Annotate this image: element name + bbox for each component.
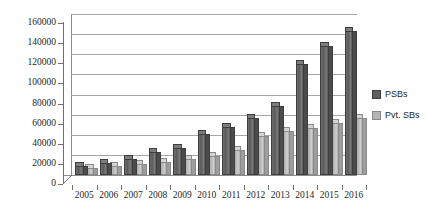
bar-psb-2015 [320, 46, 329, 175]
x-axis-tick [366, 185, 367, 190]
bar-front-face [100, 163, 109, 175]
y-axis-tick-label: 140000 [28, 38, 57, 48]
bar-side-face [167, 162, 171, 175]
x-axis-tick [219, 185, 220, 190]
bar-front-face [345, 31, 354, 175]
y-axis-tick-label: 60000 [32, 119, 56, 129]
y-axis: 0200004000060000800001000001200001400001… [0, 0, 60, 184]
bar-side-face [94, 168, 98, 175]
legend-item-label: Pvt. SBs [385, 111, 420, 120]
bar-psb-2016 [345, 31, 354, 175]
x-axis-tick [72, 185, 73, 190]
x-axis-tick [146, 185, 147, 190]
bar-side-face [304, 64, 308, 175]
legend-item-label: PSBs [385, 90, 408, 99]
x-axis-tick [342, 185, 343, 190]
bar-side-face [255, 118, 259, 175]
bar-side-face [143, 164, 147, 175]
bar-front-face [222, 127, 231, 175]
bar-side-face [182, 148, 186, 175]
bar-psb-2012 [247, 118, 256, 175]
x-axis-tick-label: 2013 [271, 190, 290, 201]
bar-psb-2008 [149, 152, 158, 175]
bar-side-face [314, 128, 318, 175]
bar-side-face [339, 123, 343, 175]
bar-side-face [353, 31, 357, 175]
bar-psb-2010 [198, 134, 207, 175]
bar-side-face [133, 159, 137, 175]
x-axis-tick-label: 2011 [222, 190, 241, 201]
bar-psb-2006 [100, 163, 109, 175]
x-axis-tick-label: 2006 [99, 190, 118, 201]
x-axis-tick [97, 185, 98, 190]
axis-origin-diagonal [63, 175, 72, 184]
bar-side-face [241, 150, 245, 175]
x-axis-tick [268, 185, 269, 190]
bar-front-face [247, 118, 256, 175]
y-axis-line [63, 22, 64, 184]
bar-psb-2007 [124, 159, 133, 175]
bar-series-group [63, 14, 357, 184]
x-axis-tick-label: 2015 [320, 190, 339, 201]
x-axis-tick [244, 185, 245, 190]
bar-side-face [216, 156, 220, 175]
x-axis-tick [317, 185, 318, 190]
x-axis-tick-label: 2005 [75, 190, 94, 201]
bar-front-face [296, 64, 305, 175]
bar-side-face [231, 127, 235, 175]
y-axis-tick [58, 184, 63, 185]
legend-swatch-icon [372, 111, 381, 120]
bar-side-face [290, 131, 294, 175]
x-axis-tick [121, 185, 122, 190]
bar-front-face [124, 159, 133, 175]
bar-side-face [280, 106, 284, 175]
plot-area [63, 14, 357, 184]
bar-psb-2011 [222, 127, 231, 175]
bar-side-face [206, 134, 210, 175]
bar-side-face [265, 136, 269, 175]
bar-front-face [173, 148, 182, 175]
bar-side-face [108, 163, 112, 175]
legend-swatch-icon [372, 90, 381, 99]
bar-side-face [157, 152, 161, 175]
bar-front-face [198, 134, 207, 175]
x-axis-tick-label: 2009 [173, 190, 192, 201]
x-axis-tick [293, 185, 294, 190]
bar-side-face [84, 166, 88, 175]
x-axis-tick-label: 2016 [344, 190, 363, 201]
bar-side-face [329, 46, 333, 175]
y-axis-tick-label: 0 [51, 179, 56, 189]
bar-side-face [192, 159, 196, 175]
x-axis-tick [195, 185, 196, 190]
bar-psb-2014 [296, 64, 305, 175]
x-axis: 2005200620072008200920102011201220132014… [63, 190, 363, 206]
x-axis-tick-label: 2010 [197, 190, 216, 201]
y-axis-tick-label: 80000 [32, 99, 56, 109]
legend-item-pvt[interactable]: Pvt. SBs [372, 111, 428, 120]
x-axis-tick-label: 2008 [148, 190, 167, 201]
y-axis-tick-label: 20000 [32, 159, 56, 169]
bar-psb-2005 [75, 166, 84, 175]
bar-side-face [118, 166, 122, 175]
bar-psb-2009 [173, 148, 182, 175]
bar-psb-2013 [271, 106, 280, 175]
bar-chart: 0200004000060000800001000001200001400001… [0, 0, 428, 217]
x-axis-tick-label: 2012 [246, 190, 265, 201]
chart-legend: PSBsPvt. SBs [372, 90, 428, 132]
bar-front-face [75, 166, 84, 175]
x-axis-tick-label: 2007 [124, 190, 143, 201]
bar-front-face [320, 46, 329, 175]
x-axis-tick-label: 2014 [295, 190, 314, 201]
y-axis-tick-label: 100000 [28, 78, 57, 88]
legend-item-psb[interactable]: PSBs [372, 90, 428, 99]
bar-front-face [149, 152, 158, 175]
bar-side-face [363, 118, 367, 175]
y-axis-tick-label: 160000 [28, 18, 57, 28]
y-axis-tick-label: 120000 [28, 58, 57, 68]
chart-floor [63, 175, 357, 184]
bar-front-face [271, 106, 280, 175]
floor-face [63, 175, 357, 184]
y-axis-tick-label: 40000 [32, 139, 56, 149]
x-axis-tick [170, 185, 171, 190]
floor-edge [63, 175, 357, 176]
